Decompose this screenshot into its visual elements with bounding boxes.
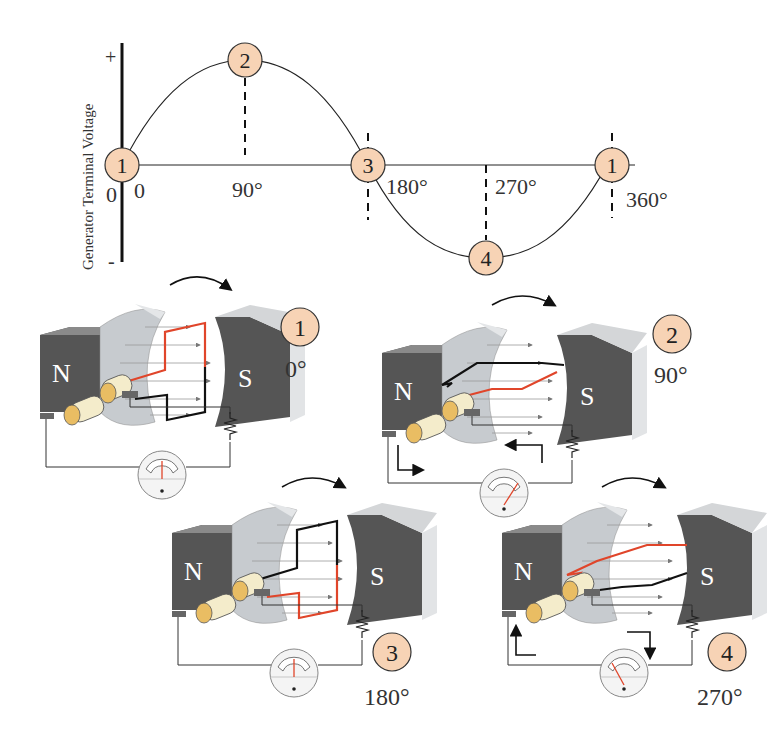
- generator-panel-4: N S 4 270°: [502, 478, 767, 710]
- panel-angle-1: 0°: [285, 356, 307, 382]
- point-badge-2: 2: [228, 43, 262, 77]
- south-pole-label: S: [238, 364, 252, 393]
- generator-panel-1: N S 1 0°: [40, 277, 319, 499]
- svg-text:1: 1: [607, 153, 618, 178]
- rotation-arrow-icon: [170, 277, 230, 289]
- point-badge-1-end: 1: [595, 148, 629, 182]
- svg-text:1: 1: [117, 153, 128, 178]
- galvanometer-icon: [138, 451, 186, 499]
- svg-text:3: 3: [386, 640, 398, 666]
- south-pole-label: S: [700, 562, 714, 591]
- x-zero-label: 0: [134, 178, 145, 203]
- generator-panel-3: N S 3 180°: [172, 478, 437, 710]
- rotation-arrow-icon: [492, 296, 554, 305]
- south-pole-label: S: [580, 382, 594, 411]
- galvanometer-icon: [480, 469, 528, 517]
- svg-text:1: 1: [294, 315, 306, 341]
- north-pole-label: N: [52, 359, 71, 388]
- panel-angle-2: 90°: [654, 362, 688, 388]
- rotation-arrow-icon: [282, 478, 344, 487]
- guide-lines: [245, 78, 612, 240]
- svg-text:4: 4: [721, 640, 733, 666]
- panel-angle-3: 180°: [364, 684, 410, 710]
- svg-text:4: 4: [481, 246, 492, 271]
- y-minus-label: -: [108, 250, 115, 272]
- svg-text:2: 2: [666, 322, 678, 348]
- generator-diagram: Generator Terminal Voltage + - 0 0 90° 1…: [0, 0, 769, 729]
- north-pole-label: N: [184, 557, 203, 586]
- y-axis-label: Generator Terminal Voltage: [80, 103, 96, 270]
- point-badge-3: 3: [351, 148, 385, 182]
- panel-angle-4: 270°: [697, 684, 743, 710]
- tick-360: 360°: [626, 187, 668, 212]
- tick-180: 180°: [386, 174, 428, 199]
- galvanometer-icon: [600, 649, 648, 697]
- svg-text:3: 3: [363, 153, 374, 178]
- y-plus-label: +: [105, 46, 116, 68]
- rotation-arrow-icon: [602, 478, 664, 487]
- tick-270: 270°: [495, 174, 537, 199]
- north-pole-label: N: [514, 557, 533, 586]
- generator-panel-2: N S 2 90°: [382, 296, 691, 517]
- panel-badge-4: 4: [708, 633, 746, 671]
- panel-badge-1: 1: [281, 308, 319, 346]
- current-arrow-icon: [507, 445, 542, 463]
- north-pole-label: N: [394, 377, 413, 406]
- galvanometer-icon: [270, 649, 318, 697]
- panel-badge-2: 2: [653, 315, 691, 353]
- panel-badge-3: 3: [373, 633, 411, 671]
- voltage-graph: Generator Terminal Voltage + - 0 0 90° 1…: [80, 43, 668, 275]
- current-arrow-icon: [516, 627, 536, 655]
- svg-text:2: 2: [240, 48, 251, 73]
- point-badge-4: 4: [469, 241, 503, 275]
- south-pole-label: S: [370, 562, 384, 591]
- point-badge-1: 1: [105, 148, 139, 182]
- current-arrow-icon: [398, 445, 422, 470]
- tick-90: 90°: [232, 177, 263, 202]
- y-zero-label: 0: [106, 182, 117, 207]
